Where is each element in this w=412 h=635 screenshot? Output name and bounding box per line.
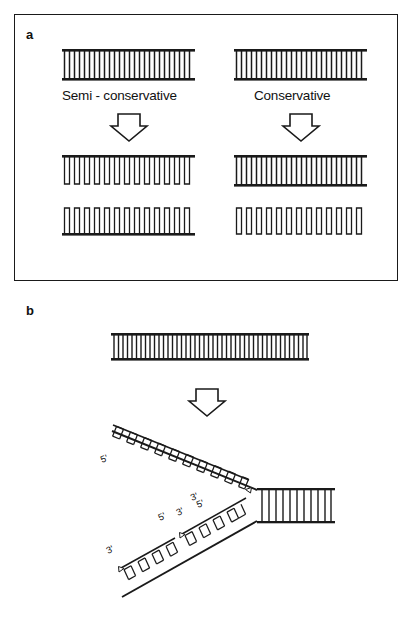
dna-replication-figure: a Semi - conservative Conservative <box>0 0 412 635</box>
okazaki-proximal-growth-marker <box>180 533 186 539</box>
okazaki-fragment-distal <box>121 538 178 580</box>
leading-strand-arm <box>113 425 252 493</box>
okazaki-distal-growth-marker <box>119 567 125 573</box>
label-leading-3-prime: 3' <box>189 490 200 503</box>
label-leading-5-prime: 5' <box>99 452 110 465</box>
panel-a <box>14 14 398 281</box>
panel-b-label: b <box>26 304 34 317</box>
label-template-5-prime: 5' <box>195 497 206 510</box>
okazaki-fragment-proximal <box>182 498 246 546</box>
fork-parent-duplex <box>111 333 309 361</box>
unreplicated-duplex <box>257 488 335 523</box>
panel-a-label: a <box>26 28 33 41</box>
label-lagging-distal-3-prime: 3' <box>104 543 115 556</box>
fork-template-backbone <box>112 431 257 597</box>
fork-arrow <box>189 389 225 416</box>
semi-conservative-title: Semi - conservative <box>62 88 177 103</box>
lagging-strand-arm <box>119 498 247 580</box>
label-lagging-mid-5-prime: 5' <box>156 510 167 523</box>
conservative-title: Conservative <box>254 88 330 103</box>
label-lagging-mid-3-prime: 3' <box>174 505 185 518</box>
